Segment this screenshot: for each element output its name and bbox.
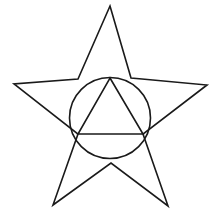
figure-background bbox=[0, 0, 220, 221]
star-circle-triangle-figure bbox=[0, 0, 220, 221]
